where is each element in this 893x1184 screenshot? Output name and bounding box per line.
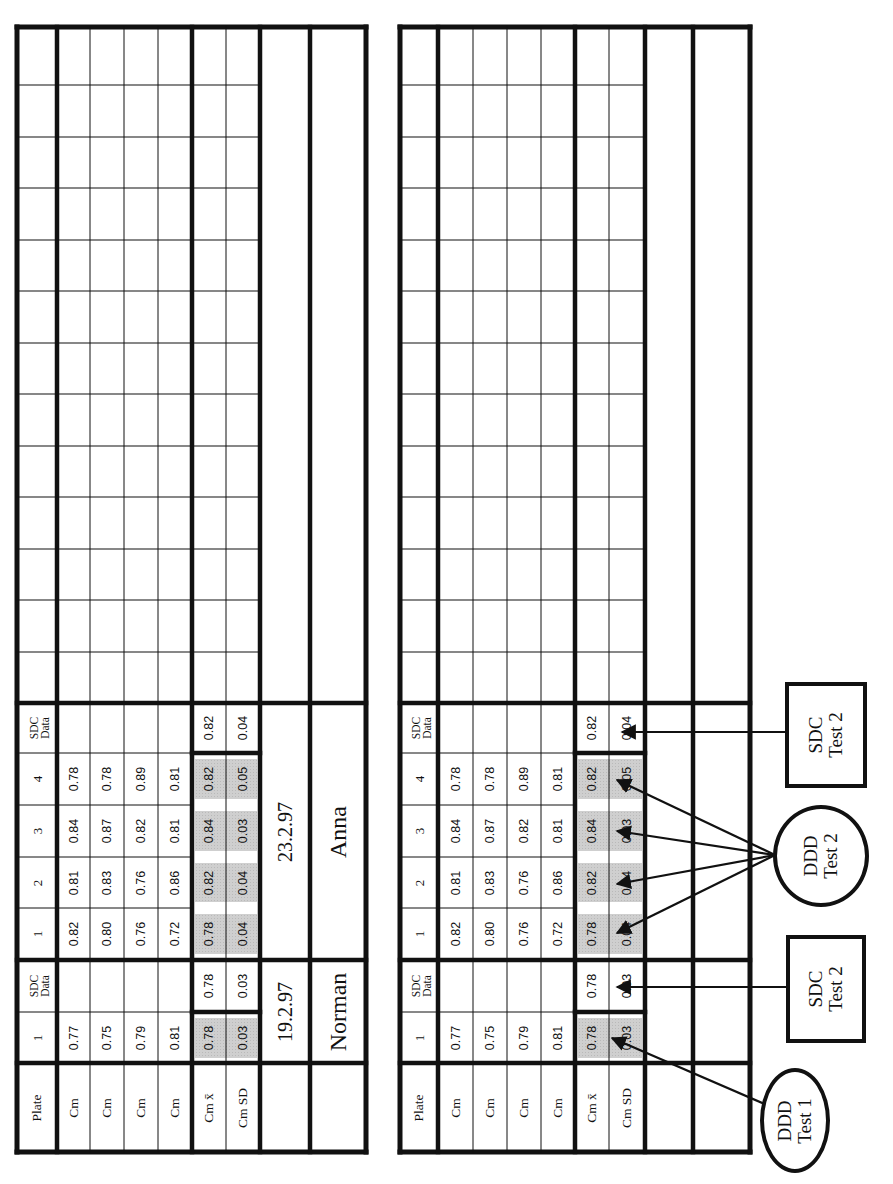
group1-operator-name: Norman — [326, 972, 350, 1051]
group2-cm-value: 0.82 — [135, 819, 148, 843]
group1-plate-number: 1 — [413, 1034, 426, 1041]
group2-plate-number: 2 — [413, 879, 426, 886]
group2-plate-number: 4 — [31, 776, 44, 783]
group1-cm-value: 0.79 — [518, 1025, 531, 1049]
group2-sd-value: 0.05 — [621, 767, 634, 791]
group2-cm-value: 0.89 — [135, 767, 148, 791]
group1-cm-value: 0.79 — [135, 1025, 148, 1049]
sdc-test2-label-b: SDC Test 2 — [806, 712, 846, 758]
ddd-test2-line2: Test 2 — [820, 833, 841, 879]
group2-cm-value: 0.81 — [67, 870, 80, 894]
group1-sd-value: 0.03 — [621, 1025, 634, 1049]
ddd-test1-label: DDD Test 1 — [775, 1098, 815, 1144]
group2-cm-value: 0.86 — [552, 870, 565, 894]
group1-sdc-sd: 0.03 — [621, 974, 634, 998]
group2-date: 23.2.97 — [275, 802, 295, 862]
group2-sdc-mean: 0.82 — [203, 716, 216, 740]
cm-row-label: Cm — [168, 1098, 182, 1118]
group2-cm-value: 0.76 — [135, 870, 148, 894]
group2-mean-value: 0.82 — [203, 767, 216, 791]
group1-cm-value: 0.81 — [552, 1025, 565, 1049]
cm-row-label: Cm — [551, 1098, 565, 1118]
group2-mean-value: 0.82 — [586, 870, 599, 894]
group2-cm-value: 0.81 — [169, 767, 182, 791]
cm-sd-row-label: Cm SD — [236, 1087, 250, 1127]
group2-cm-value: 0.78 — [484, 767, 497, 791]
group2-cm-value: 0.76 — [518, 922, 531, 946]
sdc-test2-a-line1: SDC — [805, 971, 826, 1008]
sdc-test2-a-line2: Test 2 — [825, 966, 846, 1012]
cm-row-label: Cm — [483, 1098, 497, 1118]
group2-plate-number: 1 — [413, 931, 426, 938]
group2-cm-value: 0.78 — [67, 767, 80, 791]
cm-row-label: Cm — [67, 1098, 81, 1118]
group2-sd-value: 0.03 — [621, 819, 634, 843]
group2-cm-value: 0.72 — [552, 922, 565, 946]
group2-cm-value: 0.83 — [101, 870, 114, 894]
group1-date: 19.2.97 — [275, 982, 295, 1042]
plate-header: Plate — [412, 1094, 426, 1121]
group2-sdc-sd: 0.04 — [621, 716, 634, 740]
group2-sdc-sd: 0.04 — [237, 716, 250, 740]
group1-sdc-mean: 0.78 — [586, 974, 599, 998]
group1-cm-value: 0.75 — [101, 1025, 114, 1049]
group2-cm-value: 0.81 — [552, 767, 565, 791]
group1-cm-value: 0.77 — [449, 1025, 462, 1049]
group2-mean-value: 0.82 — [586, 767, 599, 791]
ddd-test2-line1: DDD — [800, 835, 821, 876]
group1-sdc-sd: 0.03 — [237, 974, 250, 998]
group1-cm-value: 0.77 — [67, 1025, 80, 1049]
group1-cm-value: 0.75 — [484, 1025, 497, 1049]
group2-cm-value: 0.84 — [67, 819, 80, 843]
group2-sd-value: 0.04 — [621, 870, 634, 894]
group2-plate-number: 3 — [413, 828, 426, 835]
group1-mean-value: 0.78 — [203, 1025, 216, 1049]
group2-plate-number: 2 — [31, 879, 44, 886]
ddd-test1-line2: Test 1 — [794, 1098, 815, 1144]
group2-cm-value: 0.87 — [484, 819, 497, 843]
group2-cm-value: 0.78 — [449, 767, 462, 791]
group2-mean-value: 0.78 — [203, 922, 216, 946]
group1-sd-value: 0.03 — [237, 1025, 250, 1049]
group1-cm-value: 0.81 — [169, 1025, 182, 1049]
ddd-test1-line1: DDD — [774, 1100, 795, 1141]
rotated-form-page: PlateCmCmCmCmCm x̄Cm SD10.770.750.790.81… — [0, 0, 893, 1184]
group1-plate-number: 1 — [31, 1034, 44, 1041]
cm-mean-row-label: Cm x̄ — [202, 1093, 216, 1123]
group2-cm-value: 0.76 — [135, 922, 148, 946]
group2-cm-value: 0.89 — [518, 767, 531, 791]
group2-sd-value: 0.04 — [621, 922, 634, 946]
cm-mean-row-label: Cm x̄ — [585, 1093, 599, 1123]
group2-operator-name: Anna — [326, 806, 350, 858]
group2-cm-value: 0.78 — [101, 767, 114, 791]
group1-sdc-mean: 0.78 — [203, 974, 216, 998]
cm-sd-row-label: Cm SD — [620, 1087, 634, 1127]
group2-cm-value: 0.82 — [449, 922, 462, 946]
ddd-test2-label: DDD Test 2 — [801, 833, 841, 879]
group2-cm-value: 0.81 — [169, 819, 182, 843]
group2-cm-value: 0.80 — [101, 922, 114, 946]
group2-sd-value: 0.05 — [237, 767, 250, 791]
group2-cm-value: 0.84 — [449, 819, 462, 843]
group2-cm-value: 0.81 — [552, 819, 565, 843]
group2-cm-value: 0.72 — [169, 922, 182, 946]
group2-mean-value: 0.78 — [586, 922, 599, 946]
group2-cm-value: 0.83 — [484, 870, 497, 894]
group2-plate-number: 4 — [413, 776, 426, 783]
cm-row-label: Cm — [100, 1098, 114, 1118]
group2-sdc-mean: 0.82 — [586, 716, 599, 740]
group2-cm-value: 0.80 — [484, 922, 497, 946]
group2-cm-value: 0.82 — [518, 819, 531, 843]
plate-header: Plate — [30, 1094, 44, 1121]
cm-row-label: Cm — [517, 1098, 531, 1118]
cm-row-label: Cm — [449, 1098, 463, 1118]
group2-cm-value: 0.76 — [518, 870, 531, 894]
group2-cm-value: 0.87 — [101, 819, 114, 843]
group2-sd-value: 0.04 — [237, 870, 250, 894]
group1-sdc-header: SDC Data — [411, 968, 433, 1004]
group2-sdc-header: SDC Data — [411, 710, 433, 746]
sdc-test2-b-line2: Test 2 — [825, 712, 846, 758]
group2-sd-value: 0.03 — [237, 819, 250, 843]
sdc-test2-b-line1: SDC — [805, 717, 826, 754]
group2-mean-value: 0.84 — [586, 819, 599, 843]
